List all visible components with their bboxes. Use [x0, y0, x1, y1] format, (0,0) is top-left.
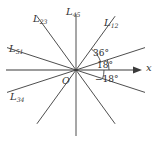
label-line-L12: L12: [104, 18, 119, 29]
geometry-svg: [0, 0, 158, 141]
label-line-L23: L23: [33, 14, 48, 25]
lines-group: [7, 14, 145, 136]
label-angle-36: 36°: [93, 49, 109, 58]
right-arrow-icon: [133, 67, 142, 74]
label-line-L51: L51: [9, 44, 24, 55]
label-x-axis: x: [146, 63, 152, 73]
label-line-L34: L34: [10, 92, 25, 103]
figure-canvas: L12 L23 L34 L45 L51 36° 18° −18° x O: [0, 0, 158, 141]
label-angle-minus-18: −18°: [95, 75, 119, 84]
label-line-L45: L45: [66, 7, 81, 18]
label-angle-18: 18°: [97, 61, 113, 70]
label-origin: O: [62, 76, 70, 86]
